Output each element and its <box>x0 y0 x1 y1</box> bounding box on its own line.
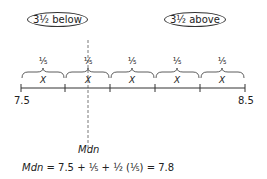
segment-variable: X <box>40 75 46 85</box>
segment-fraction: ⅕ <box>84 56 93 66</box>
formula-rhs: = 7.5 + ⅕ + ½ (⅕) = 7.8 <box>43 162 174 173</box>
below-count-label: 3½ below <box>27 12 88 27</box>
segment-fraction: ⅕ <box>218 56 227 66</box>
segment-variable: X <box>129 75 135 85</box>
segment-variable: X <box>85 75 91 85</box>
median-formula: Mdn = 7.5 + ⅕ + ½ (⅕) = 7.8 <box>22 162 174 173</box>
right-endpoint-label: 8.5 <box>238 95 254 106</box>
segment-fraction: ⅕ <box>173 56 182 66</box>
median-label: Mdn <box>78 144 99 155</box>
segment-fraction: ⅕ <box>39 56 48 66</box>
number-line-diagram <box>0 0 267 179</box>
segment-variable: X <box>174 75 180 85</box>
segment-variable: X <box>219 75 225 85</box>
left-endpoint-label: 7.5 <box>14 95 30 106</box>
segment-fraction: ⅕ <box>128 56 137 66</box>
formula-lhs: Mdn <box>22 162 43 173</box>
above-count-label: 3½ above <box>164 12 226 27</box>
